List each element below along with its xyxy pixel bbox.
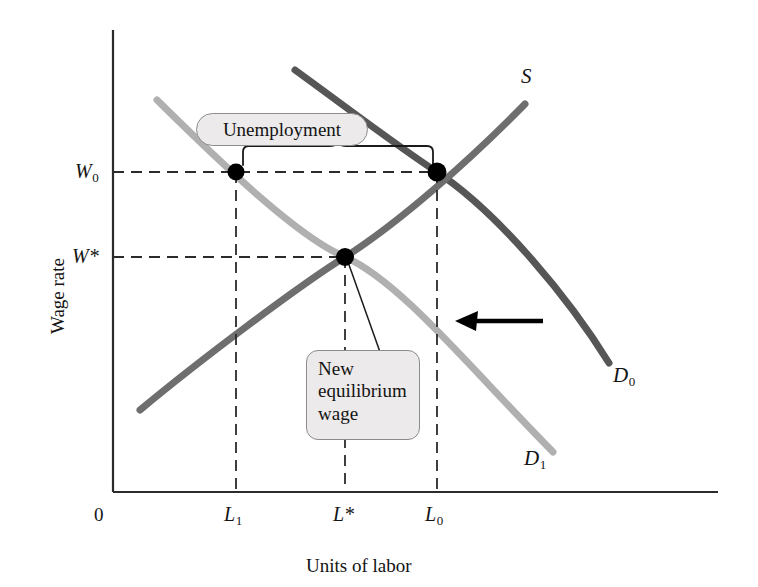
curve-label-demand-new: D1 — [524, 448, 546, 471]
point-l1-w0 — [228, 164, 245, 181]
new-equilibrium-line-2: equilibrium — [318, 380, 419, 402]
curve-label-d0-base: D — [613, 363, 628, 387]
point-initial-equilibrium — [428, 163, 447, 182]
unemployment-callout: Unemployment — [196, 113, 368, 146]
y-tick-label-w0: W0 — [75, 161, 99, 184]
curve-label-d0-sub: 0 — [628, 374, 635, 389]
origin-label: 0 — [94, 505, 104, 524]
x-tick-l0-base: L — [425, 503, 436, 525]
curve-label-d1-base: D — [524, 446, 539, 470]
y-tick-wstar-sub — [99, 255, 100, 270]
new-equilibrium-line-3: wage — [318, 403, 419, 425]
curve-label-supply-sub — [532, 75, 533, 90]
demand-shift-left-arrow — [455, 311, 543, 331]
y-tick-wstar-base: W* — [72, 245, 99, 267]
curve-label-supply-base: S — [521, 64, 532, 88]
supply-demand-chart — [0, 0, 758, 587]
y-tick-label-wstar: W* — [72, 246, 99, 269]
x-tick-l1-base: L — [224, 503, 235, 525]
x-tick-label-l1: L1 — [224, 504, 242, 527]
curve-label-supply: S — [521, 66, 532, 89]
x-tick-label-l0: L0 — [425, 504, 443, 527]
point-new-equilibrium — [336, 248, 354, 266]
x-tick-l0-sub: 0 — [436, 513, 443, 528]
x-axis-title: Units of labor — [306, 556, 412, 575]
x-tick-l1-sub: 1 — [235, 513, 242, 528]
figure-canvas: W0 W* 0 L1 L* L0 S D0 D1 Wage rate Units… — [0, 0, 758, 587]
x-tick-lstar-base: L* — [333, 503, 354, 525]
new-equilibrium-callout: New equilibrium wage — [306, 350, 420, 440]
x-tick-label-lstar: L* — [333, 504, 355, 527]
new-equilibrium-line-1: New — [318, 358, 419, 380]
y-axis-title: Wage rate — [48, 258, 67, 334]
y-tick-w0-base: W — [75, 160, 92, 182]
x-tick-lstar-sub — [354, 513, 355, 528]
y-tick-w0-sub: 0 — [92, 170, 99, 185]
curve-label-demand-initial: D0 — [613, 365, 635, 388]
curve-label-d1-sub: 1 — [539, 457, 546, 472]
unemployment-callout-label: Unemployment — [223, 119, 341, 141]
